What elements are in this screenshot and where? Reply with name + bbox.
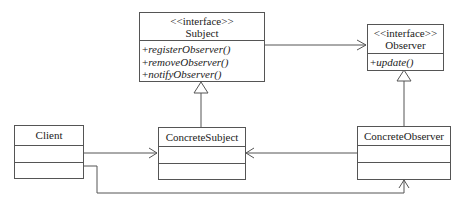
class-name: Subject	[140, 27, 264, 39]
triangle-arrow-icon	[397, 70, 411, 81]
class-subject[interactable]: <<interface>> Subject +registerObserver(…	[139, 12, 265, 82]
attributes-section	[15, 146, 83, 163]
attributes-section	[159, 147, 245, 164]
operation-notify-observer: +notifyObserver()	[140, 68, 264, 81]
operation-update: +update()	[368, 56, 443, 69]
class-name: Client	[15, 129, 83, 141]
operation-remove-observer: +removeObserver()	[140, 56, 264, 69]
class-name: ConcreteSubject	[159, 131, 245, 143]
operation-register-observer: +registerObserver()	[140, 43, 264, 56]
class-client[interactable]: Client	[14, 125, 84, 179]
class-name: Observer	[368, 39, 443, 51]
class-observer[interactable]: <<interface>> Observer +update()	[367, 24, 444, 71]
stereotype-label: <<interface>>	[140, 15, 264, 27]
class-concrete-subject[interactable]: ConcreteSubject	[158, 127, 246, 180]
triangle-arrow-icon	[194, 82, 208, 93]
class-name: ConcreteObserver	[358, 130, 450, 142]
stereotype-label: <<interface>>	[368, 27, 443, 39]
attributes-section	[358, 146, 450, 163]
class-concrete-observer[interactable]: ConcreteObserver	[357, 126, 451, 180]
